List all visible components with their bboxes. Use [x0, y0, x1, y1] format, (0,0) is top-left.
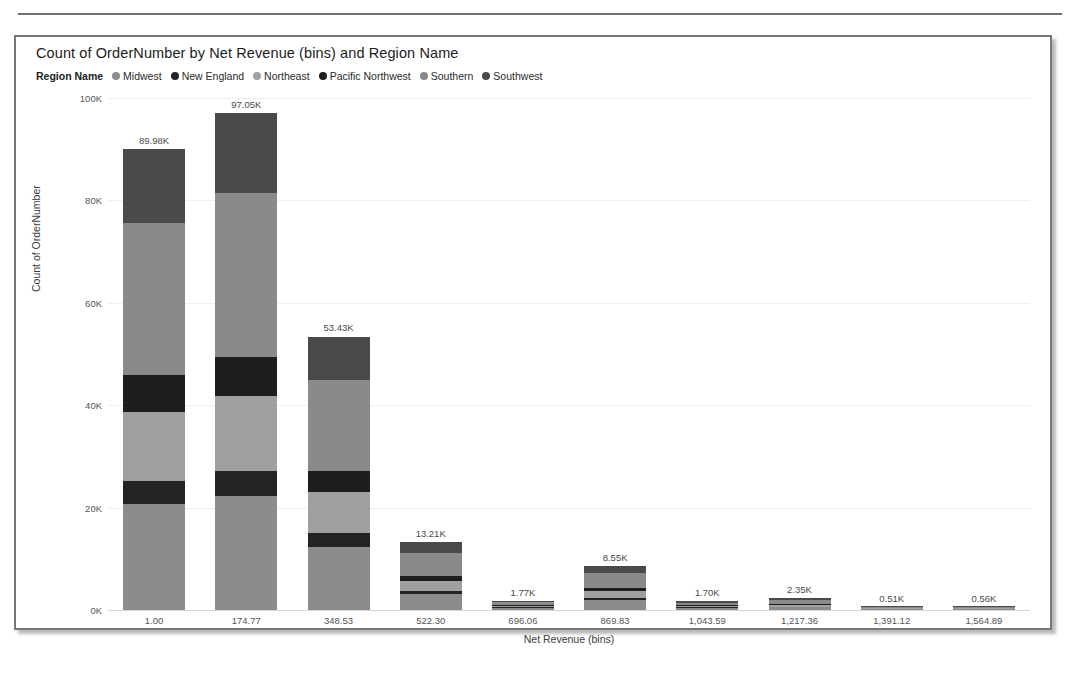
- bar-segment[interactable]: [953, 609, 1015, 610]
- plot-area-wrapper: Count of OrderNumber 0K20K40K60K80K100K …: [16, 37, 1050, 628]
- bar-segment[interactable]: [584, 600, 646, 610]
- bar-value-label: 97.05K: [197, 99, 295, 110]
- x-tick-label: 1,043.59: [658, 615, 756, 626]
- y-tick-label: 100K: [80, 93, 102, 104]
- bar-segment[interactable]: [308, 492, 370, 533]
- bar-column[interactable]: [105, 98, 203, 610]
- bar-stack[interactable]: [861, 606, 923, 610]
- bar-value-label: 89.98K: [105, 135, 203, 146]
- bar-stack[interactable]: [769, 598, 831, 610]
- plot-bars: 89.98K97.05K53.43K13.21K1.77K8.55K1.70K2…: [108, 98, 1030, 610]
- bar-column[interactable]: [658, 98, 756, 610]
- bar-segment[interactable]: [215, 357, 277, 397]
- bar-stack[interactable]: [492, 601, 554, 610]
- bar-stack[interactable]: [953, 606, 1015, 610]
- bar-segment[interactable]: [123, 223, 185, 375]
- bar-segment[interactable]: [123, 504, 185, 610]
- x-tick-label: 1,391.12: [843, 615, 941, 626]
- y-tick-label: 20K: [85, 502, 102, 513]
- bar-segment[interactable]: [215, 193, 277, 357]
- bar-segment[interactable]: [123, 375, 185, 412]
- bar-value-label: 53.43K: [290, 322, 388, 333]
- x-axis-line: [108, 610, 1030, 611]
- bar-segment[interactable]: [400, 542, 462, 553]
- bar-value-label: 13.21K: [382, 528, 480, 539]
- bar-column[interactable]: [566, 98, 664, 610]
- bar-column[interactable]: [751, 98, 849, 610]
- bar-value-label: 1.70K: [658, 587, 756, 598]
- bar-segment[interactable]: [123, 481, 185, 504]
- bar-segment[interactable]: [400, 594, 462, 610]
- bar-segment[interactable]: [400, 581, 462, 591]
- bar-stack[interactable]: [584, 566, 646, 610]
- bar-segment[interactable]: [769, 607, 831, 610]
- bar-column[interactable]: [474, 98, 572, 610]
- x-tick-label: 174.77: [197, 615, 295, 626]
- y-axis-title: Count of OrderNumber: [30, 185, 42, 292]
- x-tick-label: 1.00: [105, 615, 203, 626]
- bar-segment[interactable]: [676, 608, 738, 610]
- bar-value-label: 0.51K: [843, 593, 941, 604]
- bar-segment[interactable]: [492, 608, 554, 610]
- bar-stack[interactable]: [676, 601, 738, 610]
- y-axis-ticks: 0K20K40K60K80K100K: [50, 98, 102, 610]
- y-tick-label: 40K: [85, 400, 102, 411]
- x-tick-label: 696.06: [474, 615, 572, 626]
- bar-value-label: 0.56K: [935, 593, 1033, 604]
- bar-segment[interactable]: [123, 149, 185, 223]
- bar-value-label: 2.35K: [751, 584, 849, 595]
- x-tick-label: 348.53: [290, 615, 388, 626]
- bar-segment[interactable]: [584, 566, 646, 573]
- bar-segment[interactable]: [215, 471, 277, 496]
- bar-stack[interactable]: [215, 113, 277, 610]
- y-tick-label: 0K: [90, 605, 102, 616]
- bar-segment[interactable]: [215, 496, 277, 610]
- bar-segment[interactable]: [400, 553, 462, 575]
- bar-segment[interactable]: [215, 113, 277, 193]
- bar-column[interactable]: [935, 98, 1033, 610]
- bar-column[interactable]: [290, 98, 388, 610]
- y-tick-label: 80K: [85, 195, 102, 206]
- x-tick-label: 522.30: [382, 615, 480, 626]
- bar-segment[interactable]: [861, 609, 923, 610]
- bar-segment[interactable]: [123, 412, 185, 481]
- bar-value-label: 8.55K: [566, 552, 664, 563]
- bar-segment[interactable]: [308, 380, 370, 470]
- x-axis-ticks: 1.00174.77348.53522.30696.06869.831,043.…: [108, 615, 1030, 633]
- x-tick-label: 869.83: [566, 615, 664, 626]
- bar-segment[interactable]: [308, 337, 370, 381]
- chart-card: Count of OrderNumber by Net Revenue (bin…: [14, 35, 1052, 630]
- bar-stack[interactable]: [400, 542, 462, 610]
- bar-stack[interactable]: [308, 337, 370, 611]
- bar-segment[interactable]: [308, 471, 370, 493]
- bar-column[interactable]: [843, 98, 941, 610]
- bar-segment[interactable]: [308, 547, 370, 610]
- bar-column[interactable]: [197, 98, 295, 610]
- bar-value-label: 1.77K: [474, 587, 572, 598]
- x-tick-label: 1,564.89: [935, 615, 1033, 626]
- bar-stack[interactable]: [123, 149, 185, 610]
- y-tick-label: 60K: [85, 297, 102, 308]
- bar-segment[interactable]: [584, 573, 646, 587]
- x-axis-title: Net Revenue (bins): [108, 633, 1030, 645]
- x-tick-label: 1,217.36: [751, 615, 849, 626]
- bar-segment[interactable]: [308, 533, 370, 547]
- bar-segment[interactable]: [215, 396, 277, 471]
- page-top-rule: [18, 13, 1062, 15]
